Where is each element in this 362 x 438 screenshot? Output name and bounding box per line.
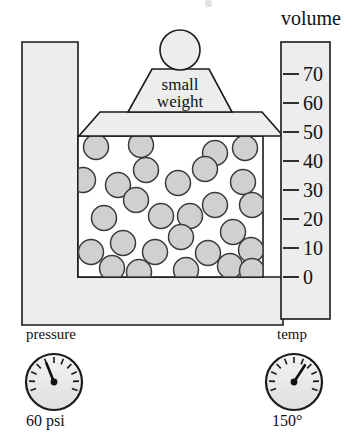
temp-gauge-value: 150° xyxy=(272,413,302,429)
weight-label: small weight xyxy=(128,76,232,111)
gas-particle xyxy=(79,240,104,265)
gas-particle xyxy=(143,240,168,265)
gauge-hub xyxy=(51,379,58,386)
gauge-hub xyxy=(291,379,298,386)
temp-gauge-title: temp xyxy=(277,327,307,342)
gas-particle xyxy=(231,170,256,195)
gas-particle xyxy=(233,136,258,161)
volume-tick-label: 10 xyxy=(303,238,323,258)
gauge-group xyxy=(26,354,322,410)
gas-particle xyxy=(196,241,221,266)
volume-tick-label: 30 xyxy=(303,180,323,200)
temp-gauge xyxy=(266,354,322,410)
weight-label-line1: small xyxy=(128,76,232,93)
piston-plate[interactable] xyxy=(79,112,283,136)
gas-particle xyxy=(134,158,159,183)
gas-particle xyxy=(111,231,136,256)
gas-particle xyxy=(240,193,265,218)
gas-particle xyxy=(92,206,117,231)
gas-particle xyxy=(84,135,109,160)
volume-tick-label: 50 xyxy=(303,122,323,142)
pressure-gauge-title: pressure xyxy=(26,327,76,342)
gas-particle xyxy=(193,157,218,182)
volume-tick-label: 0 xyxy=(303,267,313,287)
volume-tick-label: 40 xyxy=(303,151,323,171)
gas-particle xyxy=(124,188,149,213)
volume-scale-title: volume xyxy=(281,8,341,28)
diagram-canvas: volume small weight 706050403020100 pres… xyxy=(0,0,362,438)
weight-knob-icon xyxy=(160,30,200,70)
pressure-gauge xyxy=(26,354,82,410)
gas-particle xyxy=(203,193,228,218)
gas-particle xyxy=(169,225,194,250)
volume-tick-label: 60 xyxy=(303,93,323,113)
gas-particle xyxy=(166,171,191,196)
pressure-gauge-value: 60 psi xyxy=(26,413,65,429)
weight-label-line2: weight xyxy=(128,93,232,110)
volume-tick-label: 20 xyxy=(303,209,323,229)
gas-particle xyxy=(218,254,243,279)
volume-tick-label: 70 xyxy=(303,64,323,84)
gas-particle xyxy=(149,204,174,229)
